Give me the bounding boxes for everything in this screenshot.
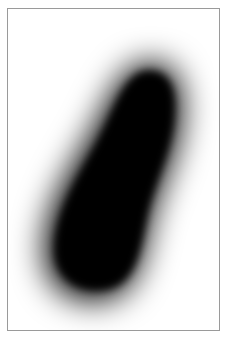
image-frame [7,8,220,331]
blurred-blob [7,8,220,331]
